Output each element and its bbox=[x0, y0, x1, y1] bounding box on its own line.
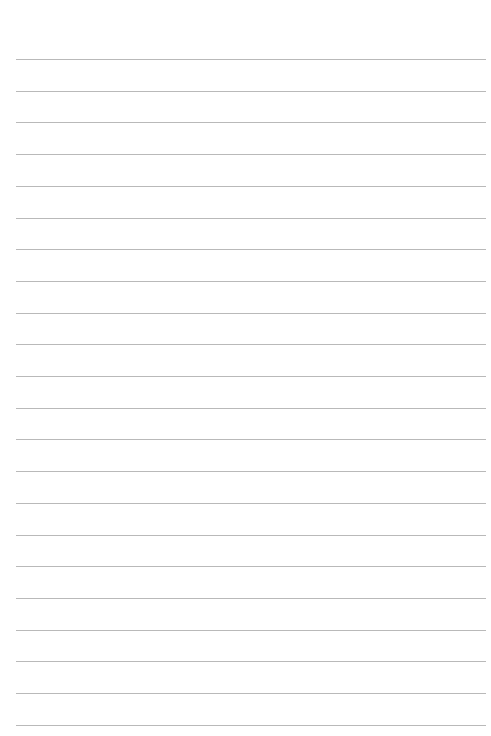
ruled-line bbox=[16, 59, 486, 60]
ruled-line bbox=[16, 344, 486, 345]
ruled-line bbox=[16, 218, 486, 219]
ruled-line bbox=[16, 408, 486, 409]
ruled-line bbox=[16, 725, 486, 726]
ruled-line bbox=[16, 122, 486, 123]
ruled-line bbox=[16, 693, 486, 694]
ruled-line bbox=[16, 376, 486, 377]
ruled-line bbox=[16, 471, 486, 472]
ruled-line bbox=[16, 566, 486, 567]
ruled-line bbox=[16, 439, 486, 440]
ruled-line bbox=[16, 186, 486, 187]
ruled-line bbox=[16, 281, 486, 282]
ruled-line bbox=[16, 630, 486, 631]
ruled-line bbox=[16, 661, 486, 662]
ruled-line bbox=[16, 503, 486, 504]
lined-paper-page bbox=[0, 0, 491, 736]
ruled-line bbox=[16, 598, 486, 599]
ruled-line bbox=[16, 154, 486, 155]
ruled-line bbox=[16, 91, 486, 92]
ruled-line bbox=[16, 249, 486, 250]
ruled-line bbox=[16, 313, 486, 314]
ruled-line bbox=[16, 535, 486, 536]
